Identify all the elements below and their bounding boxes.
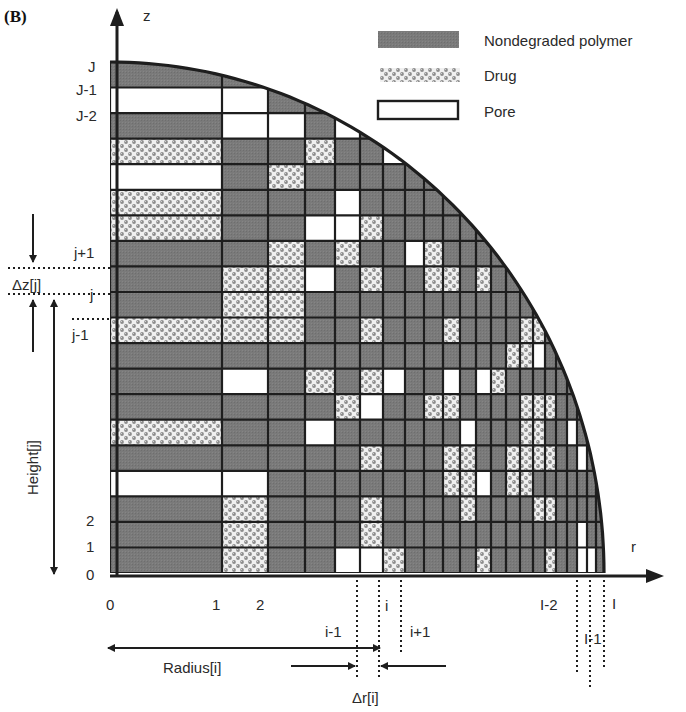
r-tick-i+1: i+1: [410, 623, 430, 640]
pore-cell: [305, 266, 335, 292]
polymer-cell: [587, 164, 596, 190]
polymer-cell: [491, 343, 506, 369]
polymer-cell: [567, 496, 577, 522]
drug-cell: [268, 318, 305, 344]
pore-cell: [335, 190, 360, 216]
polymer-cell: [443, 343, 460, 369]
polymer-cell: [520, 62, 533, 88]
polymer-cell: [533, 190, 545, 216]
polymer-cell: [545, 522, 556, 548]
pore-cell: [443, 369, 460, 395]
polymer-cell: [268, 190, 305, 216]
polymer-cell: [268, 215, 305, 241]
polymer-cell: [424, 471, 443, 497]
polymer-cell: [596, 113, 604, 139]
polymer-cell: [405, 471, 424, 497]
polymer-cell: [556, 292, 567, 318]
polymer-cell: [335, 522, 360, 548]
polymer-cell: [460, 394, 476, 420]
drug-cell: [110, 420, 222, 446]
drug-cell: [268, 241, 305, 267]
polymer-cell: [545, 190, 556, 216]
polymer-cell: [556, 215, 567, 241]
polymer-cell: [460, 164, 476, 190]
polymer-cell: [506, 420, 520, 446]
polymer-cell: [577, 369, 587, 395]
polymer-cell: [443, 241, 460, 267]
polymer-cell: [577, 215, 587, 241]
drug-cell: [305, 369, 335, 395]
polymer-cell: [491, 164, 506, 190]
r-tick-I-1: I-1: [584, 630, 602, 647]
polymer-cell: [110, 241, 222, 267]
legend-label-pore: Pore: [484, 103, 516, 120]
polymer-cell: [491, 266, 506, 292]
polymer-cell: [424, 496, 443, 522]
polymer-cell: [545, 139, 556, 165]
polymer-cell: [383, 241, 405, 267]
drug-cell: [305, 139, 335, 165]
polymer-cell: [491, 548, 506, 574]
polymer-cell: [222, 394, 268, 420]
polymer-cell: [567, 241, 577, 267]
polymer-cell: [533, 522, 545, 548]
polymer-cell: [383, 318, 405, 344]
polymer-cell: [383, 266, 405, 292]
polymer-cell: [491, 292, 506, 318]
drug-cell: [110, 215, 222, 241]
drug-cell: [360, 522, 383, 548]
polymer-cell: [460, 522, 476, 548]
panel-label: (B): [4, 7, 27, 26]
drug-cell: [360, 496, 383, 522]
polymer-cell: [520, 113, 533, 139]
pore-cell: [335, 215, 360, 241]
polymer-cell: [424, 318, 443, 344]
polymer-cell: [506, 241, 520, 267]
polymer-cell: [567, 215, 577, 241]
polymer-cell: [491, 318, 506, 344]
polymer-cell: [268, 548, 305, 574]
polymer-cell: [587, 190, 596, 216]
polymer-cell: [405, 318, 424, 344]
polymer-cell: [222, 343, 268, 369]
polymer-cell: [567, 522, 577, 548]
drug-cell: [520, 471, 533, 497]
polymer-cell: [587, 113, 596, 139]
pore-cell: [222, 471, 268, 497]
polymer-cell: [567, 445, 577, 471]
polymer-cell: [506, 164, 520, 190]
polymer-cell: [506, 394, 520, 420]
pore-cell: [110, 471, 222, 497]
polymer-cell: [383, 190, 405, 216]
polymer-cell: [596, 445, 604, 471]
polymer-cell: [567, 164, 577, 190]
polymer-cell: [587, 292, 596, 318]
polymer-cell: [476, 318, 491, 344]
polymer-cell: [491, 522, 506, 548]
polymer-cell: [556, 548, 567, 574]
drug-cell: [424, 394, 443, 420]
polymer-cell: [545, 88, 556, 114]
legend-item-pore: Pore: [378, 101, 516, 120]
drug-cell: [268, 266, 305, 292]
legend-label-polymer: Nondegraded polymer: [484, 32, 632, 49]
polymer-cell: [577, 139, 587, 165]
polymer-cell: [596, 190, 604, 216]
polymer-cell: [424, 369, 443, 395]
polymer-cell: [577, 241, 587, 267]
polymer-cell: [533, 215, 545, 241]
drug-cell: [360, 266, 383, 292]
pore-cell: [305, 215, 335, 241]
r-tick-i-1: i-1: [325, 623, 342, 640]
drug-swatch-icon: [380, 68, 460, 82]
drug-cell: [110, 139, 222, 165]
polymer-cell: [567, 88, 577, 114]
polymer-cell: [222, 420, 268, 446]
polymer-cell: [520, 241, 533, 267]
polymer-cell: [556, 164, 567, 190]
drug-cell: [460, 445, 476, 471]
polymer-cell: [506, 369, 520, 395]
polymer-cell: [335, 318, 360, 344]
polymer-cell: [383, 394, 405, 420]
polymer-cell: [596, 369, 604, 395]
